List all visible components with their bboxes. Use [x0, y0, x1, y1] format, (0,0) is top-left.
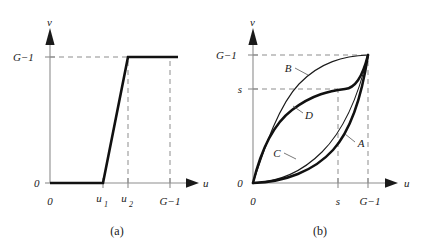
panel-a-x-ticklabel-u1-subscript: 1	[104, 200, 108, 209]
panel-b-caption: (b)	[313, 224, 327, 238]
panel-b-curve-label-D: D	[304, 109, 313, 121]
figure-root: u v G−1 0 0 u 1 u 2 G−1 (a)	[0, 0, 428, 246]
panel-b-x-ticklabel-gmax: G−1	[360, 195, 381, 207]
panel-b-curve-label-A: A	[357, 137, 365, 149]
panel-a-x-ticklabel-u2-base: u	[121, 192, 127, 204]
panel-a-y-axis-label: v	[47, 16, 52, 28]
panel-a-x-ticklabel-u1-base: u	[96, 192, 102, 204]
panel-a-x-axis-label: u	[203, 177, 209, 189]
panel-b-x-ticklabel-zero: 0	[250, 195, 256, 207]
panel-b-curve-label-C: C	[273, 147, 281, 159]
panel-a-x-ticklabel-zero: 0	[47, 195, 53, 207]
panel-b-x-ticklabel-s: s	[336, 195, 340, 207]
panel-b-y-ticklabel-zero: 0	[237, 177, 243, 189]
panel-b-x-axis-label: u	[404, 177, 410, 189]
panel-b-y-axis-label: v	[250, 16, 255, 28]
panel-a-x-ticklabel-gmax: G−1	[160, 195, 181, 207]
panel-b-y-ticklabel-s: s	[238, 83, 242, 95]
panel-b-curve-label-B: B	[285, 62, 292, 74]
figure-background	[0, 0, 428, 246]
panel-b-y-ticklabel-gmax: G−1	[216, 49, 237, 61]
panel-a-y-ticklabel-gmax: G−1	[13, 51, 34, 63]
panel-a-y-ticklabel-zero: 0	[34, 177, 40, 189]
panel-a-caption: (a)	[110, 224, 123, 238]
panel-a-x-ticklabel-u2-subscript: 2	[129, 200, 133, 209]
